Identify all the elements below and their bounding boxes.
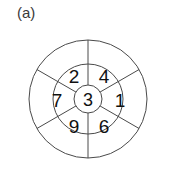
sector-value-left: 7 [52,90,63,111]
sector-value-right: 1 [115,90,126,111]
concentric-wheel-diagram: 2 4 1 6 9 7 3 [0,0,183,195]
figure-panel: (a) 2 4 1 6 9 7 3 [0,0,183,195]
center-circle-value: 3 [83,90,93,110]
sector-value-lower-right: 6 [99,116,110,137]
sector-value-upper-right: 4 [99,66,110,87]
sector-value-lower-left: 9 [69,116,80,137]
sector-value-upper-left: 2 [69,66,80,87]
